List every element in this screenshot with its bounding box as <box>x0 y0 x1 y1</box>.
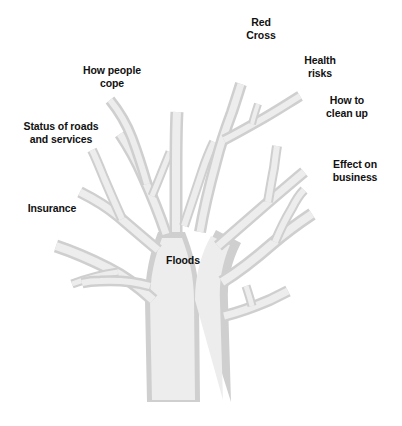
diagram-canvas: .bk { fill: none; stroke: #cfcfcf; strok… <box>0 0 402 426</box>
branch-label-insurance: Insurance <box>16 202 88 215</box>
branch-left-lower <box>56 246 153 300</box>
branch-right-stub <box>224 286 288 316</box>
branch-label-effect-on-business: Effect on business <box>322 158 388 184</box>
branch-label-red-cross: Red Cross <box>232 16 290 42</box>
branch-label-status-of-roads: Status of roads and services <box>10 120 112 146</box>
branch-label-how-to-clean-up: How to clean up <box>316 94 378 120</box>
branch-left-stub <box>82 281 150 286</box>
root-label-floods: Floods <box>156 254 210 267</box>
branch-label-health-risks: Health risks <box>292 54 348 80</box>
branch-red-cross <box>200 84 300 232</box>
branch-label-how-people-cope: How people cope <box>66 64 158 90</box>
